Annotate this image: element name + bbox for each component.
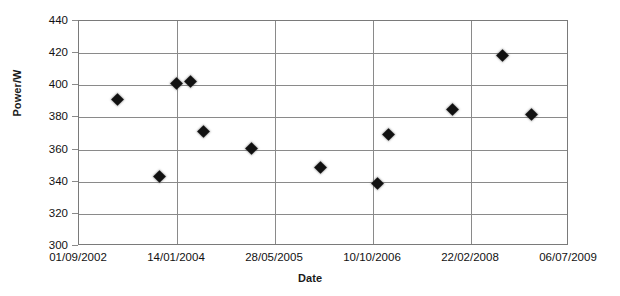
x-axis-title: Date — [0, 272, 620, 284]
y-gridline — [79, 214, 567, 215]
y-tick-label: 420 — [28, 46, 68, 58]
y-tick-label: 440 — [28, 14, 68, 26]
scatter-chart: Power/W 30032034036038040042044001/09/20… — [0, 0, 620, 296]
y-axis-title: Power/W — [8, 43, 26, 143]
x-tick-label: 06/07/2009 — [513, 250, 620, 264]
x-gridline — [275, 21, 276, 244]
y-tick-mark — [72, 245, 78, 246]
y-tick-mark — [72, 84, 78, 85]
y-tick-mark — [72, 116, 78, 117]
x-gridline — [471, 21, 472, 244]
y-tick-label: 320 — [28, 207, 68, 219]
y-tick-mark — [72, 52, 78, 53]
x-tick-label: 22/02/2008 — [415, 250, 525, 264]
y-gridline — [79, 53, 567, 54]
y-tick-mark — [72, 149, 78, 150]
x-tick-label: 14/01/2004 — [121, 250, 231, 264]
y-tick-label: 340 — [28, 175, 68, 187]
y-gridline — [79, 182, 567, 183]
x-tick-label: 28/05/2005 — [219, 250, 329, 264]
y-tick-mark — [72, 213, 78, 214]
y-gridline — [79, 150, 567, 151]
y-gridline — [79, 85, 567, 86]
y-tick-label: 360 — [28, 143, 68, 155]
y-gridline — [79, 117, 567, 118]
x-gridline — [373, 21, 374, 244]
y-tick-label: 400 — [28, 78, 68, 90]
y-tick-mark — [72, 20, 78, 21]
x-gridline — [177, 21, 178, 244]
y-tick-label: 380 — [28, 110, 68, 122]
x-tick-label: 10/10/2006 — [317, 250, 427, 264]
plot-area — [78, 20, 568, 245]
y-tick-mark — [72, 181, 78, 182]
x-tick-label: 01/09/2002 — [23, 250, 133, 264]
